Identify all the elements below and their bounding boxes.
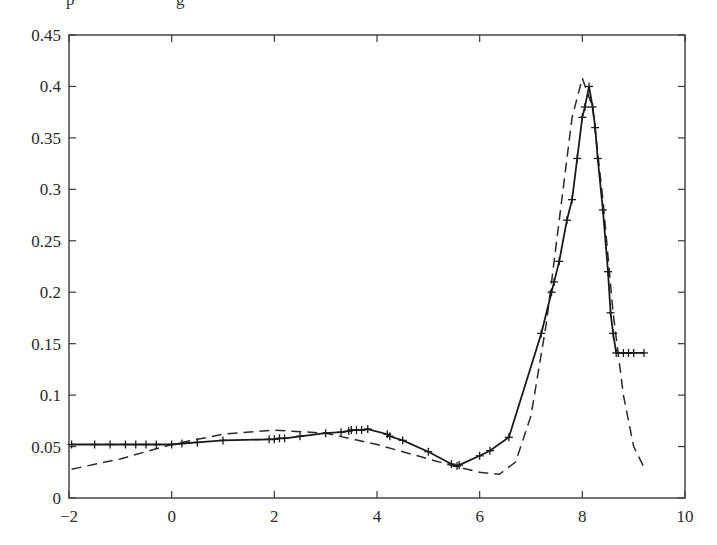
y-tick-label: 0.25 [31,232,61,251]
y-tick-label: 0.2 [40,283,61,302]
cropped-glyph: p [66,0,75,9]
y-tick-label: 0.45 [31,26,61,45]
cropped-glyph: g [176,0,185,9]
y-tick-label: 0 [53,489,62,508]
x-tick-label: 0 [167,507,176,526]
y-tick-label: 0.35 [31,129,61,148]
plus-markers [68,82,648,470]
solid-series-line [72,86,644,466]
y-tick-label: 0.4 [40,77,62,96]
x-tick-label: 8 [578,507,587,526]
x-tick-label: −2 [60,507,78,526]
x-tick-label: 10 [677,507,694,526]
dashed-series-line [72,78,644,474]
y-tick-label: 0.3 [40,180,61,199]
y-tick-label: 0.05 [31,438,61,457]
plot-area: −20246810 00.050.10.150.20.250.30.350.40… [31,26,693,526]
y-tick-label: 0.1 [40,386,61,405]
x-tick-label: 2 [270,507,279,526]
y-tick-label: 0.15 [31,335,61,354]
x-tick-label: 4 [373,507,382,526]
cropped-caption-fragment: pg [66,0,185,9]
line-chart: pg −20246810 00.050.10.150.20.250.30.350… [0,0,717,545]
x-tick-label: 6 [475,507,484,526]
x-axis: −20246810 [60,35,694,526]
